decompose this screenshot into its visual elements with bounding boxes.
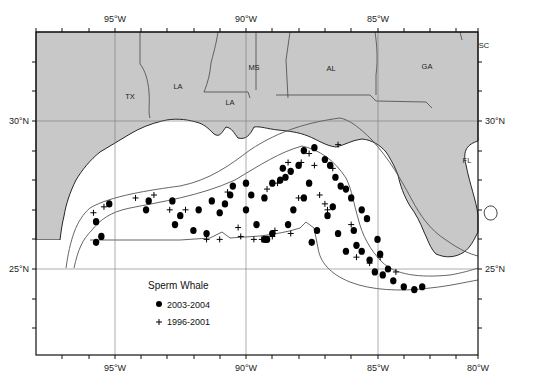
state-label-ga: GA: [422, 62, 433, 71]
sighting-circle: [248, 191, 254, 198]
sighting-circle: [343, 248, 349, 255]
left-label-25n: 25°N: [9, 264, 29, 274]
sighting-circle: [359, 248, 365, 255]
sighting-circle: [301, 194, 307, 201]
sighting-circle: [288, 168, 294, 175]
bottom-label-95w: 95°W: [104, 363, 127, 373]
gulf-of-mexico-map: 95°W 90°W 85°W 95°W 90°W 85°W 80°W 30°N …: [0, 0, 551, 386]
legend-label-1996-2001: 1996-2001: [167, 317, 210, 327]
sighting-circle: [390, 277, 396, 284]
sighting-circle: [353, 242, 359, 249]
bottom-label-85w: 85°W: [367, 363, 390, 373]
sighting-circle: [380, 271, 386, 278]
bottom-label-90w: 90°W: [235, 363, 258, 373]
sighting-circle: [190, 227, 196, 234]
sighting-circle: [177, 212, 183, 219]
sighting-circle: [280, 165, 286, 172]
sighting-circle: [282, 174, 288, 181]
land-mexico: [36, 240, 60, 355]
sighting-circle: [401, 283, 407, 290]
sighting-circle: [172, 221, 178, 228]
sighting-circle: [230, 183, 236, 190]
sighting-circle: [269, 180, 275, 187]
sighting-circle: [253, 221, 259, 228]
sighting-circle: [93, 218, 99, 225]
bottom-label-80w: 80°W: [467, 363, 490, 373]
sighting-circle: [351, 227, 357, 234]
sighting-circle: [169, 197, 175, 204]
sighting-circle: [203, 230, 209, 237]
sighting-circle: [385, 265, 391, 272]
sighting-circle: [330, 203, 336, 210]
sighting-circle: [222, 200, 228, 207]
sighting-circle: [314, 227, 320, 234]
sighting-circle: [209, 197, 215, 204]
sighting-circle: [285, 221, 291, 228]
sighting-circle: [290, 206, 296, 213]
sighting-circle: [243, 206, 249, 213]
sighting-circle: [261, 194, 267, 201]
sighting-circle: [411, 286, 417, 293]
legend-label-2003-2004: 2003-2004: [167, 300, 210, 310]
state-label-ms: MS: [248, 63, 259, 72]
right-label-30n: 30°N: [485, 116, 505, 126]
sighting-circle: [324, 212, 330, 219]
state-label-la-south: LA: [225, 98, 234, 107]
sighting-circle: [364, 215, 370, 222]
filled-circle-icon: [156, 301, 162, 307]
top-label-85w: 85°W: [367, 14, 390, 24]
state-label-la-north: LA: [173, 82, 182, 91]
sighting-circle: [264, 236, 270, 243]
top-label-95w: 95°W: [104, 14, 127, 24]
sighting-circle: [143, 206, 149, 213]
state-label-tx: TX: [125, 92, 135, 101]
sighting-circle: [93, 239, 99, 246]
sighting-circle: [374, 236, 380, 243]
state-label-fl: FL: [463, 156, 472, 165]
sighting-circle: [106, 200, 112, 207]
sighting-circle: [335, 230, 341, 237]
sighting-circle: [332, 174, 338, 181]
state-label-sc: SC: [479, 41, 490, 50]
sighting-circle: [306, 180, 312, 187]
sighting-circle: [98, 233, 104, 240]
top-label-90w: 90°W: [235, 14, 258, 24]
sighting-circle: [311, 144, 317, 151]
lake-okeechobee: [484, 206, 497, 220]
sighting-circle: [195, 206, 201, 213]
sighting-circle: [217, 209, 223, 216]
legend-title: Sperm Whale: [148, 280, 209, 291]
sighting-circle: [372, 268, 378, 275]
left-label-30n: 30°N: [9, 116, 29, 126]
sighting-circle: [419, 283, 425, 290]
sighting-circle: [322, 156, 328, 163]
sighting-circle: [343, 185, 349, 192]
sighting-circle: [348, 194, 354, 201]
sighting-circle: [359, 206, 365, 213]
right-label-25n: 25°N: [485, 264, 505, 274]
sighting-circle: [309, 239, 315, 246]
sighting-circle: [145, 197, 151, 204]
state-label-al: AL: [326, 64, 335, 73]
sighting-circle: [301, 147, 307, 154]
sighting-circle: [243, 180, 249, 187]
